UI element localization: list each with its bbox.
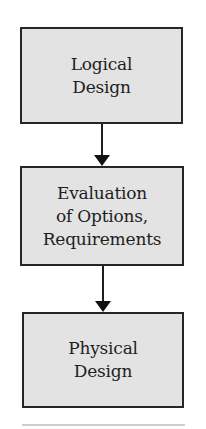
node-label-line: Design [74,360,132,383]
node-label-line: Requirements [43,228,162,251]
node-logical-design: Logical Design [20,27,183,124]
node-label-line: Design [72,76,130,99]
node-label-line: Logical [71,53,133,76]
arrow-line [101,124,103,156]
arrow-line [102,266,104,302]
node-label-line: Physical [68,337,138,360]
node-evaluation-of-options: Evaluation of Options, Requirements [20,166,184,266]
separator-line [22,424,185,426]
node-label-line: Evaluation [57,182,147,205]
node-physical-design: Physical Design [22,312,184,408]
arrowhead-down-icon [95,301,111,312]
node-label-line: of Options, [56,205,148,228]
arrowhead-down-icon [94,155,110,166]
